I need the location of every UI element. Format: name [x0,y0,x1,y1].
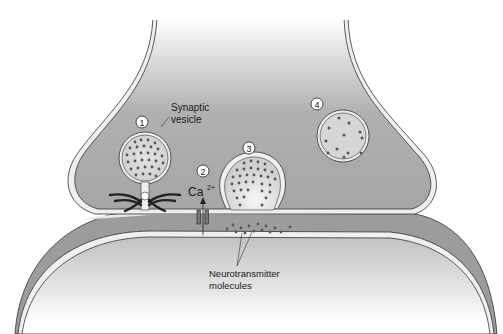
svg-text:3: 3 [246,144,251,154]
svg-text:2: 2 [200,167,205,177]
synaptic-vesicle-recycled [317,110,369,162]
svg-text:Neurotransmitter: Neurotransmitter [209,268,280,279]
svg-text:1: 1 [139,118,144,128]
svg-text:4: 4 [314,100,319,110]
svg-text:molecules: molecules [209,280,252,291]
svg-text:Synaptic: Synaptic [171,102,209,113]
step-marker-3: 3 [243,142,255,154]
synapse-diagram: 1 2 3 4 Synaptic vesicle Ca 2+ Neurotran… [0,0,503,334]
step-marker-2: 2 [197,165,209,177]
svg-text:vesicle: vesicle [171,114,202,125]
step-marker-1: 1 [136,116,148,128]
svg-text:Ca: Ca [188,185,204,199]
svg-text:2+: 2+ [207,184,215,191]
step-marker-4: 4 [311,98,323,110]
